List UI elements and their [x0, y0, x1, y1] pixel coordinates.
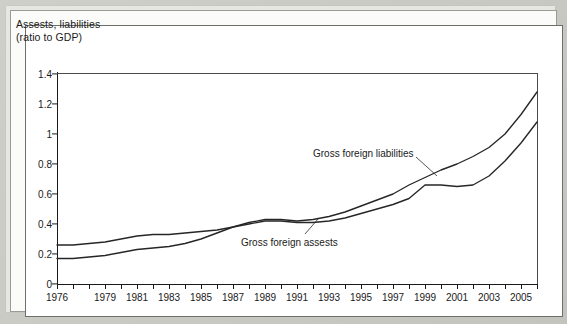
- y-tick-label: 0.4: [38, 219, 52, 230]
- x-tick-mark: [169, 284, 170, 289]
- x-tick-mark: [201, 284, 202, 289]
- x-tick-mark: [377, 284, 378, 289]
- plot-right-border: [537, 73, 538, 285]
- x-tick-mark: [217, 284, 218, 289]
- annotation-gross-foreign-assests: Gross foreign assests: [241, 237, 338, 248]
- chart-title-line1: Assests, liabilities: [16, 18, 100, 30]
- x-tick-mark: [457, 284, 458, 289]
- y-axis-line: [57, 72, 58, 286]
- x-tick-label: 1987: [222, 292, 244, 303]
- x-tick-label: 2005: [510, 292, 532, 303]
- y-tick-mark: [52, 253, 57, 254]
- x-tick-mark: [473, 284, 474, 289]
- figure-root: Assests, liabilities (ratio to GDP) 00.2…: [0, 0, 567, 324]
- x-tick-mark: [121, 284, 122, 289]
- figure-panel-inner: [25, 25, 563, 317]
- x-tick-mark: [89, 284, 90, 289]
- x-tick-mark: [73, 284, 74, 289]
- x-tick-mark: [313, 284, 314, 289]
- x-tick-mark: [441, 284, 442, 289]
- x-tick-mark: [57, 284, 58, 289]
- y-tick-mark: [52, 163, 57, 164]
- x-tick-label: 1976: [46, 292, 68, 303]
- y-tick-mark: [52, 223, 57, 224]
- x-tick-label: 1993: [318, 292, 340, 303]
- x-tick-mark: [345, 284, 346, 289]
- x-tick-mark: [393, 284, 394, 289]
- x-tick-label: 2001: [446, 292, 468, 303]
- chart-title-line2: (ratio to GDP): [16, 31, 82, 43]
- x-tick-label: 1981: [126, 292, 148, 303]
- y-tick-label: 0.6: [38, 189, 52, 200]
- x-tick-mark: [409, 284, 410, 289]
- x-tick-mark: [489, 284, 490, 289]
- x-tick-mark: [505, 284, 506, 289]
- x-tick-mark: [265, 284, 266, 289]
- x-tick-mark: [297, 284, 298, 289]
- y-tick-mark: [52, 103, 57, 104]
- x-tick-label: 1983: [158, 292, 180, 303]
- y-tick-label: 1.4: [38, 69, 52, 80]
- y-tick-label: 0.2: [38, 249, 52, 260]
- x-tick-label: 1985: [190, 292, 212, 303]
- x-tick-mark: [537, 284, 538, 289]
- x-tick-mark: [105, 284, 106, 289]
- x-tick-mark: [329, 284, 330, 289]
- x-tick-mark: [249, 284, 250, 289]
- x-tick-mark: [233, 284, 234, 289]
- x-tick-label: 1991: [286, 292, 308, 303]
- y-tick-mark: [52, 133, 57, 134]
- figure-panel-outer: [10, 10, 557, 312]
- x-tick-label: 1997: [382, 292, 404, 303]
- x-tick-mark: [361, 284, 362, 289]
- x-tick-mark: [521, 284, 522, 289]
- y-tick-mark: [52, 73, 57, 74]
- x-tick-mark: [281, 284, 282, 289]
- y-tick-label: 1.2: [38, 99, 52, 110]
- x-tick-mark: [137, 284, 138, 289]
- x-tick-mark: [153, 284, 154, 289]
- x-tick-label: 1979: [94, 292, 116, 303]
- plot-top-border: [57, 73, 538, 74]
- x-tick-mark: [185, 284, 186, 289]
- y-tick-mark: [52, 193, 57, 194]
- y-tick-label: 0.8: [38, 159, 52, 170]
- x-tick-label: 2003: [478, 292, 500, 303]
- x-tick-mark: [425, 284, 426, 289]
- chart-title: Assests, liabilities (ratio to GDP): [16, 18, 100, 43]
- x-tick-label: 1989: [254, 292, 276, 303]
- x-tick-label: 1995: [350, 292, 372, 303]
- annotation-gross-foreign-liabilities: Gross foreign liabilities: [313, 148, 414, 159]
- x-tick-label: 1999: [414, 292, 436, 303]
